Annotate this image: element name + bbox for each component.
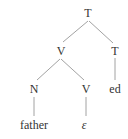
branch-v-n (37, 59, 60, 80)
branch-root-v (63, 21, 88, 42)
node-t-right: T (111, 45, 118, 57)
node-v: V (82, 83, 91, 95)
leaf-father: father (20, 119, 48, 131)
node-n: N (30, 83, 39, 95)
node-v-phrase: V (57, 45, 66, 57)
node-suffix-ed: ed (109, 83, 120, 95)
leaf-empty: ε (82, 119, 87, 131)
branch-root-t (89, 21, 113, 43)
node-root-t: T (84, 7, 91, 19)
branch-v-v (61, 59, 84, 80)
